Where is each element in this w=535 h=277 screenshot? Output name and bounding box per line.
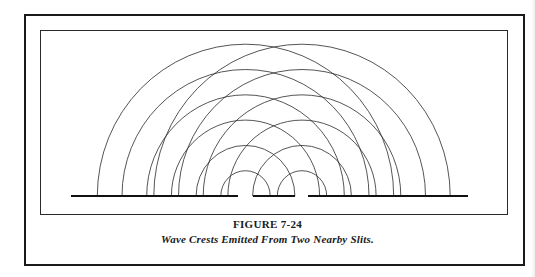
wave-crest-arc [179,70,426,197]
slit-1-wave-crests [97,44,393,196]
wave-crest-arc [171,120,319,196]
figure-caption: Wave Crests Emitted From Two Nearby Slit… [0,233,535,245]
figure-number: FIGURE 7-24 [0,218,535,230]
wave-crest-arc [228,120,376,196]
wave-crest-arc [122,70,369,197]
slit-2-wave-crests [154,44,450,196]
